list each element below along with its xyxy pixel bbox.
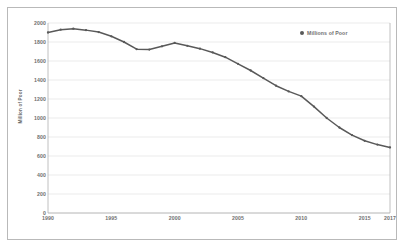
gridlines xyxy=(48,23,390,213)
chart-legend: Millions of Poor xyxy=(300,30,348,36)
line-chart-plot xyxy=(8,8,398,241)
legend-label: Millions of Poor xyxy=(307,30,348,36)
data-point-markers xyxy=(47,28,391,149)
chart-frame: Million of Poor 200018001600140012001000… xyxy=(7,7,397,240)
legend-circle-marker-icon xyxy=(300,31,304,35)
data-series-millions-of-poor xyxy=(48,29,390,148)
